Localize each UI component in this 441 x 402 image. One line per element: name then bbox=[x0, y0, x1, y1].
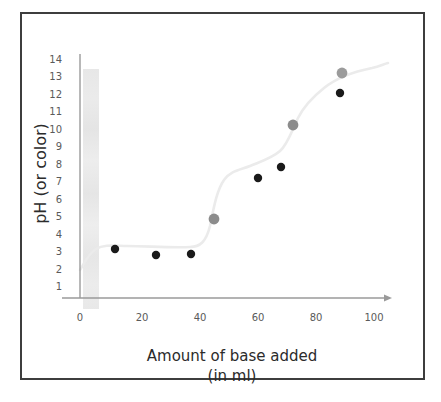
x-axis-title-line1: Amount of base added bbox=[147, 347, 317, 365]
figure-root: 14 13 12 11 10 9 8 7 6 5 4 3 2 1 0 20 40… bbox=[0, 0, 441, 402]
x-axis-title-line2: (in ml) bbox=[62, 366, 402, 386]
x-tick-label: 100 bbox=[357, 312, 391, 323]
x-tick-label: 20 bbox=[125, 312, 159, 323]
x-tick-label: 40 bbox=[183, 312, 217, 323]
titration-plot bbox=[22, 14, 423, 378]
faint-header-text bbox=[110, 0, 310, 8]
data-point-dark bbox=[254, 174, 262, 182]
data-point-dark bbox=[277, 163, 285, 171]
data-point-dark bbox=[336, 89, 344, 97]
data-point-dark bbox=[152, 251, 160, 259]
x-tick-label: 0 bbox=[63, 312, 97, 323]
x-tick-label: 60 bbox=[241, 312, 275, 323]
y-tick-label: 1 bbox=[44, 281, 62, 292]
data-point-gray bbox=[288, 120, 299, 131]
y-tick-label: 12 bbox=[44, 89, 62, 100]
x-axis-title: Amount of base added (in ml) bbox=[62, 346, 402, 387]
x-tick-label: 80 bbox=[299, 312, 333, 323]
chart-frame: 14 13 12 11 10 9 8 7 6 5 4 3 2 1 0 20 40… bbox=[20, 12, 425, 380]
data-point-gray bbox=[209, 214, 220, 225]
data-point-gray bbox=[337, 68, 348, 79]
y-tick-label: 13 bbox=[44, 71, 62, 82]
y-tick-label: 3 bbox=[44, 246, 62, 257]
data-point-dark bbox=[111, 245, 119, 253]
y-tick-label: 14 bbox=[44, 54, 62, 65]
x-axis-arrow-icon bbox=[384, 295, 392, 302]
y-axis-title: pH (or color) bbox=[31, 104, 50, 244]
data-point-dark bbox=[187, 250, 195, 258]
y-tick-label: 2 bbox=[44, 264, 62, 275]
